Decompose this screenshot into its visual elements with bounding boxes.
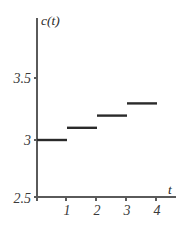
x-axis-label: t [168,182,173,197]
plot-canvas: 3.5 3 2.5 1 2 3 4 c(t) t [0,0,184,226]
x-tick-label-2: 2 [94,203,101,218]
step-function-chart: 3.5 3 2.5 1 2 3 4 c(t) t 3.0 3.1 3.2 3.3 [0,0,184,226]
x-tick-label-4: 4 [154,203,161,218]
x-tick-label-3: 3 [123,203,131,218]
y-tick-label-3-5: 3.5 [13,71,32,86]
x-axis-ticks [66,197,156,201]
y-tick-label-3: 3 [23,133,31,148]
step-function-series [37,103,157,140]
y-axis-label: c(t) [41,13,60,28]
x-tick-label-1: 1 [64,203,71,218]
y-tick-label-2-5: 2.5 [14,191,32,206]
